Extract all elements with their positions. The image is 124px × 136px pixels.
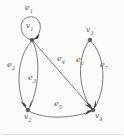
edge-label-e4: e4 (57, 55, 65, 65)
edge-label-e5: e5 (54, 100, 62, 110)
vertex-v3-dot (88, 38, 92, 42)
edge-label-e3: e3 (28, 74, 36, 84)
graph-figure: e1 e2 e3 e4 e5 e6 e7 v1 v2 v3 v4 (0, 0, 124, 136)
vertex-v1-dot (30, 38, 34, 42)
edge-label-e7: e7 (100, 61, 108, 71)
bottom-divider (2, 134, 122, 135)
vertex-label-v2: v2 (24, 113, 32, 123)
edge-label-e2: e2 (7, 61, 15, 71)
edge-label-e1: e1 (25, 4, 33, 14)
edge-e7-path (91, 41, 103, 107)
vertex-label-v1: v1 (26, 22, 34, 32)
vertex-label-v4: v4 (95, 112, 103, 122)
vertex-label-v3: v3 (86, 26, 94, 36)
edge-e4-path (33, 41, 91, 107)
edge-label-e6: e6 (76, 56, 84, 66)
edge-e5-path (30, 111, 91, 117)
